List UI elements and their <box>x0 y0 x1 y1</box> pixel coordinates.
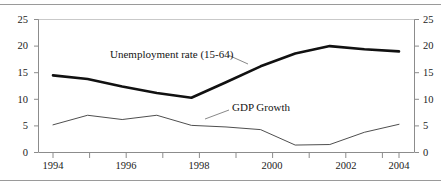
x-tick-label-2004: 2004 <box>379 160 419 171</box>
y-tick-label-left-5: 5 <box>6 120 28 131</box>
x-ticks <box>53 153 399 159</box>
x-tick-label-2002: 2002 <box>326 160 366 171</box>
x-tick-label-1994: 1994 <box>33 160 73 171</box>
x-tick-label-1998: 1998 <box>179 160 219 171</box>
y-tick-label-right-0: 0 <box>423 147 441 158</box>
series-label-unemployment: Unemployment rate (15-64) <box>110 48 233 60</box>
x-tick-label-2000: 2000 <box>252 160 292 171</box>
gdp-leader-line <box>205 110 229 119</box>
y-tick-label-right-5: 5 <box>423 120 441 131</box>
y-tick-label-left-25: 25 <box>6 14 28 25</box>
line-chart-plot <box>0 0 441 185</box>
y-tick-label-right-25: 25 <box>423 14 441 25</box>
series-label-gdp-growth: GDP Growth <box>232 101 290 113</box>
x-tick-label-1996: 1996 <box>106 160 146 171</box>
y-tick-label-right-15: 15 <box>423 67 441 78</box>
y-ticks-left <box>34 20 39 153</box>
y-tick-label-right-20: 20 <box>423 40 441 51</box>
y-tick-label-right-10: 10 <box>423 94 441 105</box>
series-line-gdp-growth <box>53 115 399 145</box>
chart-figure: 25 20 15 10 5 0 25 20 15 10 5 0 1994 199… <box>0 0 441 185</box>
y-ticks-right <box>415 20 420 153</box>
y-tick-label-left-0: 0 <box>6 147 28 158</box>
y-tick-label-left-15: 15 <box>6 67 28 78</box>
y-tick-label-left-10: 10 <box>6 94 28 105</box>
y-tick-label-left-20: 20 <box>6 40 28 51</box>
